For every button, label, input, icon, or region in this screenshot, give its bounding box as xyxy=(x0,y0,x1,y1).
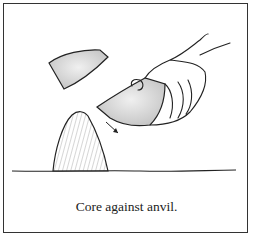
core xyxy=(97,78,165,126)
figure-caption: Core against anvil. xyxy=(0,199,253,215)
direction-arrow xyxy=(106,122,118,133)
flake xyxy=(49,50,108,89)
anvil xyxy=(53,112,108,171)
ground-line xyxy=(12,170,236,171)
